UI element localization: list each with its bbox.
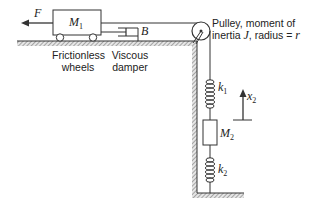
damper-label: B xyxy=(141,25,148,37)
mass-m1-label: M1 xyxy=(69,16,83,33)
force-arrow xyxy=(21,20,53,27)
force-label: F xyxy=(34,7,41,19)
bottom-ground xyxy=(192,193,244,198)
vertical-wall xyxy=(192,41,197,196)
horizontal-ground xyxy=(17,41,197,46)
spring-k1 xyxy=(206,80,215,120)
wheel-left xyxy=(56,34,63,41)
displacement-x2-label: x2 xyxy=(247,90,256,107)
pulley xyxy=(192,22,210,44)
spring-k1-label: k1 xyxy=(218,81,227,98)
mass-m2-label: M2 xyxy=(220,127,234,144)
damper-caption: Viscous damper xyxy=(110,49,150,73)
mass-m2-block xyxy=(203,120,217,145)
viscous-damper xyxy=(101,28,138,41)
wheels-caption: Frictionless wheels xyxy=(52,49,104,73)
spring-k2 xyxy=(206,145,215,193)
pulley-caption: Pulley, moment of inertia J, radius = r xyxy=(212,17,300,41)
wheel-right xyxy=(89,34,96,41)
spring-k2-label: k2 xyxy=(218,163,227,180)
